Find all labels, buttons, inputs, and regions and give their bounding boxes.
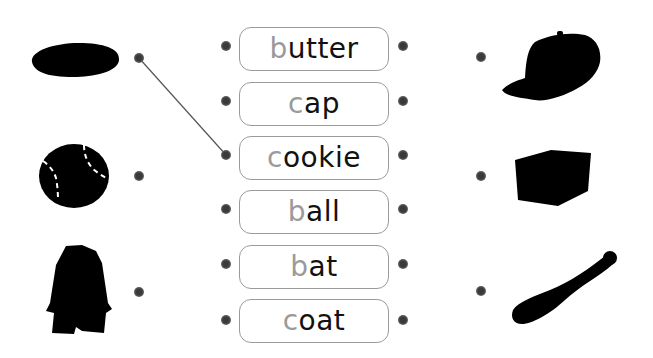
word-4-right-dot[interactable]: [398, 204, 408, 214]
word-5-right-dot[interactable]: [398, 259, 408, 269]
word-rest: ookie: [283, 141, 361, 174]
word-rest: at: [309, 250, 338, 283]
first-letter: b: [269, 32, 287, 65]
connection-line: [139, 58, 226, 155]
right-dot-2[interactable]: [476, 171, 486, 181]
word-rest: ap: [304, 87, 340, 120]
right-dot-3[interactable]: [476, 286, 486, 296]
word-2-left-dot[interactable]: [221, 96, 231, 106]
ball-icon: [38, 143, 110, 209]
word-label: cookie: [267, 144, 361, 172]
word-rest: all: [306, 195, 340, 228]
first-letter: b: [290, 250, 308, 283]
cookie-icon: [28, 40, 122, 80]
word-label: cap: [288, 90, 340, 118]
word-2-right-dot[interactable]: [398, 96, 408, 106]
word-rest: utter: [288, 32, 359, 65]
left-dot-2[interactable]: [134, 171, 144, 181]
word-1-left-dot[interactable]: [221, 41, 231, 51]
word-3-left-dot[interactable]: [221, 150, 231, 160]
word-box-bat[interactable]: bat: [239, 245, 389, 289]
butter-icon: [513, 149, 593, 209]
word-6-right-dot[interactable]: [398, 315, 408, 325]
first-letter: c: [288, 87, 304, 120]
word-1-right-dot[interactable]: [398, 41, 408, 51]
left-dot-1[interactable]: [134, 53, 144, 63]
left-dot-3[interactable]: [134, 287, 144, 297]
word-box-cap[interactable]: cap: [239, 82, 389, 126]
first-letter: b: [288, 195, 306, 228]
word-label: coat: [283, 307, 346, 335]
bat-icon: [510, 248, 622, 326]
word-box-cookie[interactable]: cookie: [239, 136, 389, 180]
word-4-left-dot[interactable]: [221, 204, 231, 214]
word-label: bat: [290, 253, 337, 281]
word-3-right-dot[interactable]: [398, 150, 408, 160]
word-rest: oat: [299, 304, 346, 337]
first-letter: c: [267, 141, 283, 174]
cap-icon: [500, 30, 605, 102]
word-label: ball: [288, 198, 341, 226]
word-label: butter: [269, 35, 358, 63]
word-box-butter[interactable]: butter: [239, 27, 389, 71]
word-6-left-dot[interactable]: [221, 315, 231, 325]
word-box-coat[interactable]: coat: [239, 299, 389, 343]
right-dot-1[interactable]: [476, 52, 486, 62]
first-letter: c: [283, 304, 299, 337]
coat-icon: [44, 243, 116, 335]
word-5-left-dot[interactable]: [221, 259, 231, 269]
word-box-ball[interactable]: ball: [239, 190, 389, 234]
